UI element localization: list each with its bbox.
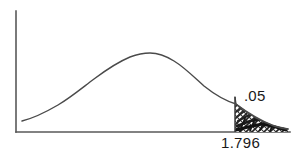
critical-value-label: 1.796 [221, 135, 260, 150]
alpha-level-label: .05 [244, 88, 265, 103]
t-distribution-figure: .05 1.796 [0, 0, 296, 159]
